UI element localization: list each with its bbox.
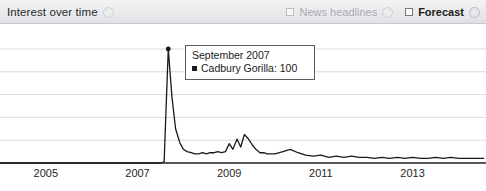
x-axis-tick-label: 2009 bbox=[217, 167, 241, 179]
news-headlines-checkbox[interactable] bbox=[286, 8, 294, 16]
chart-tooltip: September 2007 Cadbury Gorilla: 100 bbox=[185, 45, 315, 80]
series-swatch-icon bbox=[192, 66, 197, 71]
x-axis-tick-label: 2005 bbox=[34, 167, 58, 179]
tooltip-series-row: Cadbury Gorilla: 100 bbox=[192, 62, 309, 75]
tooltip-date: September 2007 bbox=[192, 49, 309, 62]
help-circle-icon[interactable] bbox=[103, 7, 114, 18]
toggle-news-headlines[interactable]: News headlines bbox=[286, 6, 393, 18]
x-axis-tick-label: 2013 bbox=[400, 167, 424, 179]
page-title: Interest over time bbox=[7, 6, 98, 18]
news-headlines-label: News headlines bbox=[299, 6, 377, 18]
forecast-help-circle-icon[interactable] bbox=[469, 7, 480, 18]
forecast-checkbox[interactable] bbox=[405, 8, 413, 16]
forecast-label: Forecast bbox=[418, 6, 464, 18]
header-controls: News headlines Forecast bbox=[286, 6, 480, 18]
x-axis-tick-label: 2007 bbox=[125, 167, 149, 179]
news-headlines-help-circle-icon[interactable] bbox=[382, 7, 393, 18]
tooltip-series-value: Cadbury Gorilla: 100 bbox=[201, 62, 297, 75]
panel-header: Interest over time News headlines Foreca… bbox=[0, 0, 486, 24]
peak-data-point-marker bbox=[166, 47, 171, 52]
toggle-forecast[interactable]: Forecast bbox=[405, 6, 480, 18]
x-axis-tick-label: 2011 bbox=[309, 167, 333, 179]
